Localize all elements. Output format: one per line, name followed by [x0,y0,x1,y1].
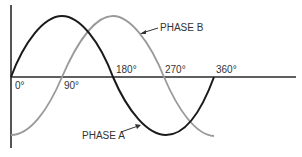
label-270-deg: 270° [165,64,186,75]
label-0-deg: 0° [15,80,25,91]
label-180-deg: 180° [116,64,137,75]
phase-a-label: PHASE A [82,130,125,141]
phase-a-curve [11,16,214,135]
sine-wave-diagram: 0° 90° 180° 270° 360° PHASE B PHASE A [0,0,302,157]
label-360-deg: 360° [216,64,237,75]
label-90-deg: 90° [64,80,79,91]
phase-b-arrowhead-icon [140,30,146,34]
phase-b-label: PHASE B [160,22,204,33]
